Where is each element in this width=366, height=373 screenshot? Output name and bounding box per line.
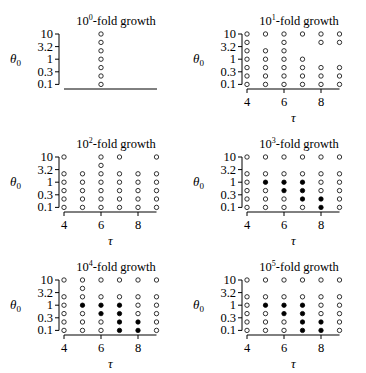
x-axis-label: τ [108,356,114,371]
open-marker [319,172,323,176]
open-marker [263,320,267,324]
y-tick-label: 0.1 [37,77,53,91]
filled-marker [282,180,286,184]
panel-2: 102-fold growth103.210.30.1θ0468τ [10,136,159,248]
open-marker [245,188,249,192]
open-marker [80,286,84,290]
open-marker [80,328,84,332]
filled-marker [263,303,267,307]
panel-1: 101-fold growth103.210.30.1θ0468τ [193,13,342,125]
open-marker [300,155,304,159]
open-marker [99,188,103,192]
open-marker [300,74,304,78]
panel-title: 104-fold growth [76,259,156,274]
open-marker [282,49,286,53]
open-marker [117,180,121,184]
x-tick-label: 8 [318,341,324,355]
open-marker [245,32,249,36]
open-marker [263,205,267,209]
open-marker [99,180,103,184]
filled-marker [117,328,121,332]
open-marker [99,320,103,324]
open-marker [337,40,341,44]
open-marker [117,155,121,159]
open-marker [117,278,121,282]
open-marker [136,172,140,176]
open-marker [136,180,140,184]
open-marker [263,278,267,282]
open-marker [154,155,158,159]
filled-marker [300,303,304,307]
open-marker [62,278,66,282]
filled-marker [300,328,304,332]
open-marker [99,40,103,44]
open-marker [62,320,66,324]
x-tick-label: 8 [135,218,141,232]
filled-marker [300,320,304,324]
x-axis-label: τ [291,356,297,371]
open-marker [282,278,286,282]
panel-4: 104-fold growth103.210.30.1θ0468τ [10,259,159,371]
open-marker [80,172,84,176]
open-marker [245,49,249,53]
filled-marker [282,311,286,315]
open-marker [117,295,121,299]
open-marker [263,49,267,53]
open-marker [62,303,66,307]
open-marker [282,57,286,61]
x-tick-label: 4 [244,341,251,355]
x-tick-label: 8 [318,218,324,232]
open-marker [337,205,341,209]
y-tick-label: 0.1 [37,323,53,337]
open-marker [99,278,103,282]
open-marker [337,320,341,324]
open-marker [99,82,103,86]
open-marker [337,155,341,159]
filled-marker [136,320,140,324]
open-marker [337,180,341,184]
open-marker [282,205,286,209]
open-marker [80,311,84,315]
open-marker [62,172,66,176]
y-tick-label: 0.1 [220,323,236,337]
open-marker [99,57,103,61]
open-marker [99,172,103,176]
open-marker [99,328,103,332]
open-marker [319,303,323,307]
open-marker [136,311,140,315]
x-axis-label: τ [291,233,297,248]
y-axis-label: θ0 [10,174,21,191]
open-marker [80,188,84,192]
open-marker [337,328,341,332]
x-tick-label: 4 [61,218,68,232]
filled-marker [117,303,121,307]
open-marker [319,188,323,192]
open-marker [263,311,267,315]
x-tick-label: 8 [318,95,324,109]
open-marker [337,278,341,282]
open-marker [245,65,249,69]
x-axis-label: τ [108,233,114,248]
open-marker [154,320,158,324]
open-marker [282,295,286,299]
open-marker [337,74,341,78]
open-marker [245,40,249,44]
filled-marker [319,205,323,209]
y-axis-label: θ0 [193,51,204,68]
open-marker [80,295,84,299]
open-marker [263,172,267,176]
open-marker [99,155,103,159]
x-tick-label: 6 [98,218,104,232]
x-tick-label: 8 [135,341,141,355]
open-marker [99,197,103,201]
open-marker [263,328,267,332]
panel-title: 103-fold growth [259,136,339,151]
filled-marker [300,311,304,315]
open-marker [80,205,84,209]
open-marker [282,155,286,159]
filled-marker [99,303,103,307]
open-marker [263,74,267,78]
open-marker [154,278,158,282]
open-marker [337,295,341,299]
open-marker [263,188,267,192]
